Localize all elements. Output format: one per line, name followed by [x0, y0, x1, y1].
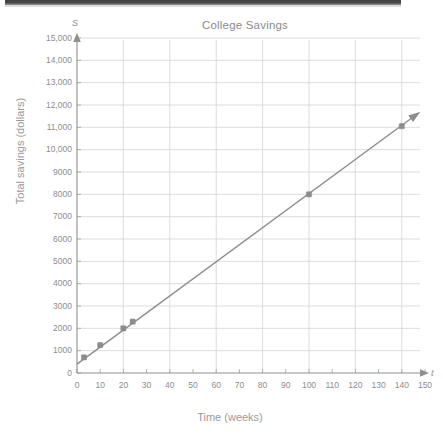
college-savings-chart: College Savings Total savings (dollars) …: [0, 0, 443, 435]
data-point-10-1250: [98, 342, 103, 347]
x-axis-arrowhead: [420, 369, 429, 376]
ytick-label-7000: 7000: [20, 211, 72, 221]
data-point-140-11050: [399, 124, 404, 129]
y-gridlines: [77, 38, 420, 351]
ytick-label-14000: 14,000: [20, 55, 72, 65]
ytick-label-5000: 5000: [20, 256, 72, 266]
ytick-label-9000: 9000: [20, 167, 72, 177]
ytick-label-1000: 1000: [20, 345, 72, 355]
ytick-label-3000: 3000: [20, 301, 72, 311]
trend-line-arrowhead: [408, 112, 420, 122]
ytick-label-15000: 15,000: [20, 33, 72, 43]
data-point-20-2000: [121, 326, 126, 331]
ytick-label-4000: 4000: [20, 278, 72, 288]
ytick-label-13000: 13,000: [20, 77, 72, 87]
ytick-label-0: 0: [20, 368, 72, 378]
x-axis-tick-marks: [77, 369, 425, 373]
y-axis-tick-marks: [77, 38, 81, 373]
x-gridlines: [123, 40, 401, 373]
trend-line: [77, 117, 413, 364]
ytick-label-8000: 8000: [20, 189, 72, 199]
ytick-label-11000: 11,000: [20, 122, 72, 132]
ytick-label-2000: 2000: [20, 323, 72, 333]
xtick-label-150: 150: [410, 380, 440, 390]
ytick-label-10000: 10,000: [20, 144, 72, 154]
data-point-3-700: [81, 355, 86, 360]
y-axis-arrowhead: [73, 33, 81, 42]
data-point-24-2300: [130, 319, 135, 324]
data-point-100-8000: [306, 192, 311, 197]
ytick-label-12000: 12,000: [20, 100, 72, 110]
ytick-label-6000: 6000: [20, 234, 72, 244]
